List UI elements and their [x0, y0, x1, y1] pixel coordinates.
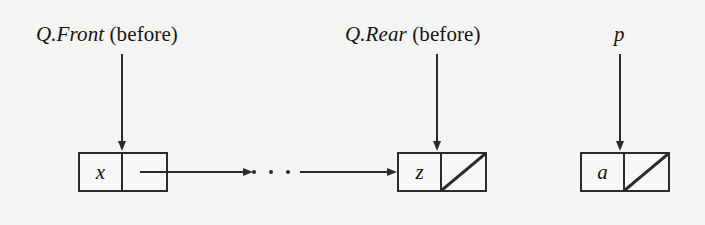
label-q-front-math: Q.Front [36, 22, 104, 46]
link-arrow-x-to-ellipsis [140, 171, 244, 173]
label-q-front-before: Q.Front (before) [36, 24, 178, 45]
pointer-arrow-q-front [121, 54, 123, 142]
ellipsis-dot [252, 170, 256, 174]
label-q-front-paren: (before) [104, 22, 178, 46]
linked-list-diagram: Q.Front (before) Q.Rear (before) p x z [0, 0, 705, 225]
ellipsis-dots [252, 169, 290, 175]
null-slash-icon [442, 154, 485, 190]
pointer-arrow-p [619, 54, 621, 142]
node-z-link-cell [442, 154, 485, 190]
pointer-arrow-q-rear [436, 54, 438, 142]
node-z-data-cell: z [399, 154, 442, 190]
label-q-rear-before: Q.Rear (before) [345, 24, 481, 45]
label-q-rear-math: Q.Rear [345, 22, 407, 46]
node-z: z [397, 152, 487, 192]
ellipsis-dot [286, 170, 290, 174]
null-slash-icon [625, 154, 668, 190]
ellipsis-dot [269, 170, 273, 174]
node-x-data-cell: x [80, 154, 123, 190]
label-p-pointer: p [614, 24, 625, 45]
node-a: a [580, 152, 670, 192]
link-arrow-ellipsis-to-z [300, 171, 388, 173]
label-q-rear-paren: (before) [407, 22, 481, 46]
node-a-data-cell: a [582, 154, 625, 190]
node-a-link-cell [625, 154, 668, 190]
